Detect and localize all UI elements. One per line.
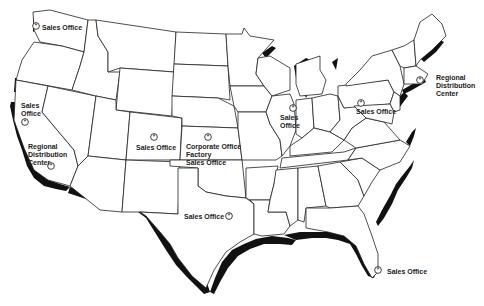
location-label-florida: Sales Office [387, 268, 427, 276]
circled-star-icon[interactable]: * [204, 133, 212, 141]
location-label-boston: RegionalDistributionCenter [436, 74, 475, 98]
circled-star-icon[interactable]: * [357, 99, 365, 107]
circled-star-icon[interactable]: * [21, 118, 29, 126]
location-label-denver: Sales Office [136, 144, 176, 152]
circled-star-icon[interactable]: * [289, 104, 297, 112]
location-label-pennsylvania: Sales Office [356, 108, 396, 116]
location-label-sf: SalesOffice [21, 102, 41, 118]
location-label-texas: Sales Office [184, 213, 224, 221]
circled-star-icon[interactable]: * [32, 22, 40, 30]
location-label-corporate: Corporate OfficeFactorySales Office [186, 143, 241, 167]
us-map [0, 0, 484, 306]
circled-star-icon[interactable]: * [416, 76, 424, 84]
circled-star-icon[interactable]: * [374, 266, 382, 274]
circled-star-icon[interactable]: * [150, 133, 158, 141]
location-label-chicago: SalesOffice [280, 114, 300, 130]
location-label-seattle: Sales Office [42, 24, 82, 32]
circled-star-icon[interactable]: * [225, 212, 233, 220]
location-label-la: RegionalDistributionCenter [28, 143, 67, 167]
